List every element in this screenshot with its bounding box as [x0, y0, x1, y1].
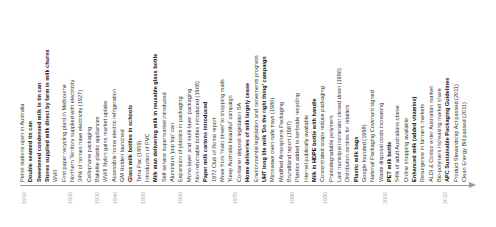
- event-label: Stores supplied milk direct by farm in m…: [44, 49, 50, 182]
- event-label: Plastic milk bags: [353, 137, 359, 182]
- event-label: Google founded (1998): [361, 124, 367, 182]
- event-label: WWI: [52, 170, 58, 182]
- event-label: Clean Energy Bill passed (2011): [461, 102, 467, 182]
- timeline-axis-line: [20, 185, 472, 186]
- event-label: Glass milk bottles in schools: [127, 105, 133, 182]
- event-label: Petrol stations open in Australia: [19, 104, 25, 182]
- year-tick-label: 1960: [177, 192, 183, 204]
- event-label: Brundtland report (1987): [286, 121, 292, 182]
- event-label: Photodegradable polymers: [328, 115, 334, 182]
- event-label: Double seamed tin can: [27, 121, 33, 182]
- event-label: Expansion of plastics in packaging: [177, 96, 183, 182]
- event-label: Milk in HDPE bottle with handle: [311, 98, 317, 182]
- year-tick-label: 1990: [322, 192, 328, 204]
- event-label: Enhanced milk (added vitamins): [411, 97, 417, 182]
- year-tick-label: 1920: [67, 192, 73, 204]
- year-tick-label: 1950: [140, 192, 146, 204]
- event-label: 1972 Club of Rome report: [211, 118, 217, 182]
- event-label: National Packaging Covenant signed: [369, 90, 375, 182]
- year-tick-label: 1940: [112, 192, 118, 204]
- event-label: Bakelite plastic appliances: [94, 116, 100, 182]
- event-label: Bio-polymers increasing market share: [436, 88, 442, 182]
- event-label: Mono-layer and multi-layer packaging: [186, 89, 192, 182]
- event-label: Non-returnable bottles introduced (1968): [194, 81, 200, 182]
- timeline-diagram: Petrol stations open in AustraliaDouble …: [0, 0, 496, 227]
- event-label: Environmental legislation and movements …: [253, 55, 259, 182]
- event-label: 54% of adult Australians obese: [394, 105, 400, 182]
- event-label: 34% of homes have electricity (1927): [77, 90, 83, 182]
- event-label: ALDI & Costco enter Australian market: [428, 86, 434, 182]
- event-label: Milk man delivering milk in reusable gla…: [152, 54, 158, 182]
- event-label: Sweetened condensed milk in tin can: [36, 83, 42, 182]
- event-label: Plastics added to kerbside recycling: [294, 93, 300, 182]
- event-label: Tetra Pac (1959): [136, 141, 142, 182]
- event-label: Product Stewardship Act passed (2011): [453, 84, 459, 182]
- event-label: First paper recycling plant in Melbourne: [61, 84, 67, 182]
- year-tick-label: 2000: [382, 192, 388, 204]
- event-label: Online shopping available: [403, 118, 409, 182]
- event-label: WWII Nylon gains market uptake: [102, 101, 108, 182]
- event-label: Concentrated soaps reduce packaging: [319, 86, 325, 182]
- event-label: Aluminium 'pop top' can: [169, 123, 175, 182]
- arrow-right-icon: [469, 182, 476, 188]
- event-label: Distribution centres for retailers: [344, 105, 350, 182]
- event-label: Home deliveries of milk largely cease: [244, 83, 250, 182]
- event-label: Cellophane packaging: [86, 127, 92, 182]
- event-label: Microwave oven-safe trays (1986): [269, 98, 275, 182]
- event-label: UHT long life milk 'Do the right thing' …: [261, 56, 267, 182]
- year-tick-label: 1930: [94, 192, 100, 204]
- event-label: Internet publically available: [303, 115, 309, 182]
- event-label: Modified Atmosphere Packaging: [278, 102, 284, 182]
- year-tick-label: 2010: [442, 192, 448, 204]
- year-tick-label: 1980: [289, 192, 295, 204]
- event-label: Resurgence in farmers markets: [419, 104, 425, 182]
- event-label: PET milk bottle: [386, 142, 392, 182]
- event-label: Accessible home electric refrigeration: [111, 89, 117, 182]
- event-label: APC Sustainable Packaging Guidelines: [444, 78, 450, 182]
- year-tick-label: 1970: [232, 192, 238, 204]
- event-label: GM Holden launched: [119, 129, 125, 182]
- event-label: Container deposit legislation SA: [236, 103, 242, 182]
- event-label: Paper milk cartons introduced: [202, 101, 208, 182]
- event-label: Northern Territory supplied with electri…: [69, 80, 75, 182]
- year-tick-label: 1910: [21, 192, 27, 204]
- event-label: Waste disposal costs increasing: [378, 103, 384, 182]
- event-label: Last municipal incinerator closed down (…: [336, 68, 342, 182]
- event-label: Self-service supermarket introduced: [161, 92, 167, 182]
- event-label: Move from 'main street' to shopping mall…: [219, 79, 225, 182]
- event-label: Introduction of PVC: [144, 133, 150, 182]
- event-label: 'Keep Australia beautiful' campaign: [227, 95, 233, 182]
